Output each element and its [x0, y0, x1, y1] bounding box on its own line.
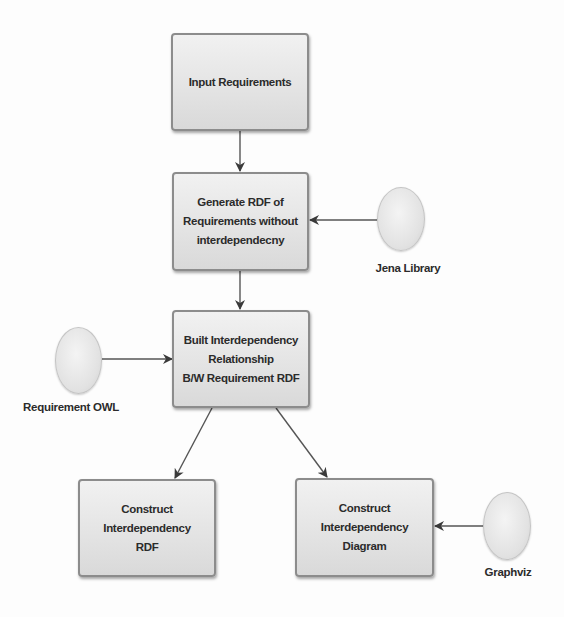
node-line: Diagram — [321, 537, 409, 556]
edge-built-to-construct-diagram — [276, 408, 327, 477]
node-jena-library-ellipse — [377, 187, 425, 251]
node-requirement-owl-label: Requirement OWL — [23, 401, 119, 413]
node-line: Interdependency — [321, 518, 409, 537]
node-text: Input Requirements — [189, 73, 292, 92]
node-built-interdependency: Built Interdependency Relationship B/W R… — [172, 310, 310, 408]
node-input-requirements: Input Requirements — [171, 33, 309, 131]
node-construct-diagram: Construct Interdependency Diagram — [295, 478, 434, 577]
node-line: interdependecny — [183, 231, 298, 250]
node-text: Construct Interdependency RDF — [103, 500, 191, 557]
node-construct-rdf: Construct Interdependency RDF — [78, 479, 216, 577]
flowchart-canvas: Input Requirements Generate RDF of Requi… — [0, 0, 564, 617]
node-line: B/W Requirement RDF — [183, 369, 300, 388]
node-line: RDF — [103, 538, 191, 557]
node-line: Input Requirements — [189, 73, 292, 92]
node-graphviz-label: Graphviz — [485, 566, 532, 578]
node-line: Generate RDF of — [183, 193, 298, 212]
node-text: Built Interdependency Relationship B/W R… — [183, 331, 300, 388]
node-graphviz-ellipse — [483, 492, 531, 560]
node-line: Construct — [321, 499, 409, 518]
node-requirement-owl-ellipse — [55, 327, 102, 394]
node-line: Interdependency — [103, 519, 191, 538]
edge-built-to-construct-rdf — [175, 408, 212, 478]
node-line: Relationship — [183, 350, 300, 369]
node-line: Built Interdependency — [183, 331, 300, 350]
node-line: Construct — [103, 500, 191, 519]
node-text: Construct Interdependency Diagram — [321, 499, 409, 556]
node-text: Generate RDF of Requirements without int… — [183, 193, 298, 250]
node-line: Requirements without — [183, 212, 298, 231]
node-jena-library-label: Jena Library — [376, 262, 441, 274]
node-generate-rdf: Generate RDF of Requirements without int… — [172, 172, 309, 271]
